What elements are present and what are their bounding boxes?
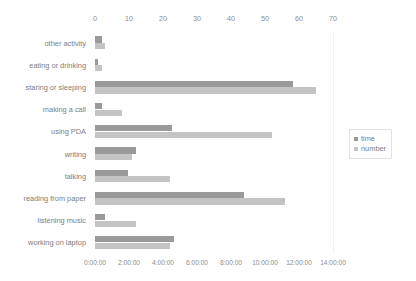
bar-number	[95, 198, 285, 204]
bottom-axis-tick: 6:00:00	[186, 258, 208, 268]
top-axis-tick: 60	[295, 14, 303, 24]
bottom-axis-tick: 12:00:00	[286, 258, 312, 268]
bottom-axis-tick: 10:00:00	[252, 258, 278, 268]
bar-time	[95, 103, 102, 109]
category-axis-labels: other activityeating or drinkingstaring …	[0, 32, 90, 254]
bar-row	[95, 32, 333, 54]
bar-row	[95, 76, 333, 98]
bar-row	[95, 187, 333, 209]
category-label: using PDA	[0, 127, 86, 136]
legend-label: number	[361, 144, 386, 154]
plot-right-border	[333, 32, 334, 254]
bar-time	[95, 59, 98, 65]
top-axis-tick: 0	[93, 14, 97, 24]
top-axis-tick: 10	[125, 14, 133, 24]
bar-number	[95, 176, 170, 182]
bar-time	[95, 147, 136, 153]
bar-row	[95, 143, 333, 165]
category-label: talking	[0, 172, 86, 181]
bar-number	[95, 87, 316, 93]
bottom-axis-time: 0:00:002:00:004:00:006:00:008:00:0010:00…	[95, 258, 333, 272]
legend-label: time	[361, 134, 375, 144]
bar-number	[95, 132, 272, 138]
bottom-axis-tick: 0:00:00	[84, 258, 106, 268]
legend-swatch-icon	[354, 147, 358, 151]
bar-time	[95, 170, 128, 176]
top-axis-number: 010203040506070	[95, 14, 333, 28]
bar-number	[95, 243, 170, 249]
legend-item: number	[354, 144, 386, 154]
bottom-axis-tick: 14:00:00	[320, 258, 346, 268]
legend-swatch-icon	[354, 137, 358, 141]
bottom-axis-tick: 4:00:00	[152, 258, 174, 268]
top-axis-tick: 20	[159, 14, 167, 24]
bar-row	[95, 165, 333, 187]
category-label: staring or sleeping	[0, 83, 86, 92]
legend-item: time	[354, 134, 386, 144]
bar-row	[95, 121, 333, 143]
bar-time	[95, 192, 244, 198]
category-label: reading from paper	[0, 194, 86, 203]
bar-number	[95, 65, 102, 71]
bar-number	[95, 154, 132, 160]
category-label: eating or drinking	[0, 61, 86, 70]
bar-row	[95, 210, 333, 232]
bar-number	[95, 110, 122, 116]
top-axis-tick: 40	[227, 14, 235, 24]
bottom-axis-tick: 2:00:00	[118, 258, 140, 268]
bar-time	[95, 81, 293, 87]
bar-row	[95, 54, 333, 76]
top-axis-tick: 30	[193, 14, 201, 24]
chart-legend: timenumber	[349, 129, 392, 159]
category-label: listening music	[0, 216, 86, 225]
activity-bar-chart: 010203040506070 other activityeating or …	[0, 0, 416, 281]
bottom-axis-tick: 8:00:00	[220, 258, 242, 268]
bar-time	[95, 214, 105, 220]
bar-row	[95, 232, 333, 254]
top-axis-tick: 50	[261, 14, 269, 24]
bar-number	[95, 221, 136, 227]
category-label: making a call	[0, 105, 86, 114]
bar-row	[95, 99, 333, 121]
bar-time	[95, 125, 172, 131]
category-label: other activity	[0, 39, 86, 48]
bar-time	[95, 236, 174, 242]
top-axis-tick: 70	[329, 14, 337, 24]
plot-area	[95, 32, 333, 254]
bar-time	[95, 36, 102, 42]
category-label: writing	[0, 150, 86, 159]
category-label: working on laptop	[0, 238, 86, 247]
bar-number	[95, 43, 105, 49]
